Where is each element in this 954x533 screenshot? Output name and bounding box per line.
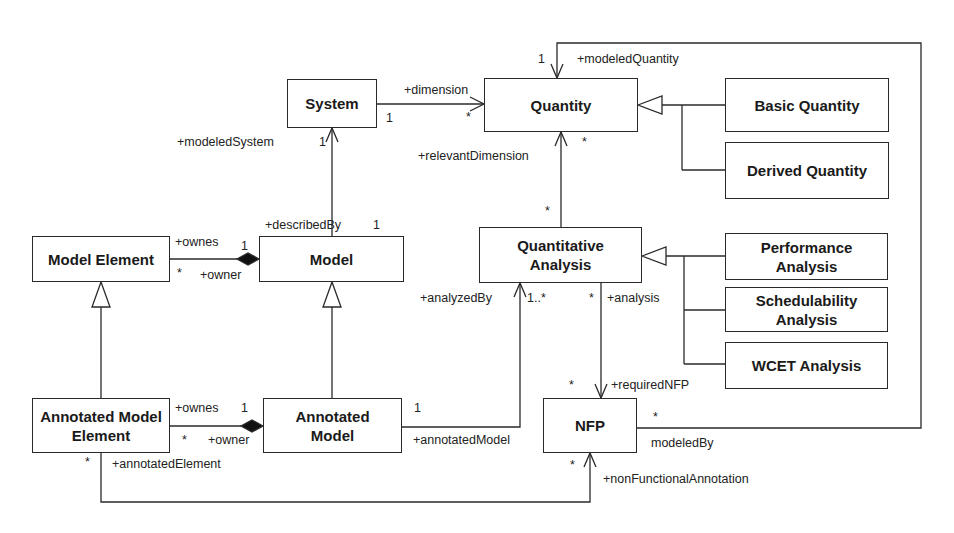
class-nfp[interactable]: NFP [543, 398, 637, 453]
multiplicity-label: 1..* [527, 291, 546, 305]
class-wcet-analysis[interactable]: WCET Analysis [725, 342, 888, 389]
class-nfp-name: NFP [575, 416, 605, 435]
class-derived-quantity-name: Derived Quantity [747, 161, 867, 180]
role-label: +requiredNFP [611, 378, 689, 392]
role-label: +owner [200, 268, 241, 282]
class-system-name: System [305, 94, 358, 113]
class-basic-quantity-name: Basic Quantity [754, 96, 859, 115]
class-wcet-analysis-name: WCET Analysis [752, 356, 861, 375]
class-model-element-name: Model Element [48, 250, 154, 269]
multiplicity-label: * [589, 291, 594, 305]
role-label: +owner [208, 433, 249, 447]
class-annotated-model-element[interactable]: Annotated Model Element [32, 398, 170, 453]
class-basic-quantity[interactable]: Basic Quantity [725, 78, 889, 132]
role-label: +analyzedBy [420, 291, 492, 305]
role-label: modeledBy [651, 436, 714, 450]
class-quantitative-analysis[interactable]: Quantitative Analysis [479, 227, 642, 283]
role-label: +annotatedElement [112, 457, 221, 471]
multiplicity-label: * [570, 458, 575, 472]
role-label: +ownes [175, 235, 218, 249]
class-quantitative-analysis-name: Quantitative Analysis [510, 236, 611, 274]
multiplicity-label: 1 [414, 401, 421, 415]
role-label: +modeledSystem [177, 135, 274, 149]
class-performance-analysis-name: Performance Analysis [754, 238, 859, 276]
role-label: +analysis [607, 291, 659, 305]
multiplicity-label: * [85, 455, 90, 469]
multiplicity-label: * [653, 410, 658, 424]
multiplicity-label: 1 [241, 401, 248, 415]
multiplicity-label: * [182, 433, 187, 447]
multiplicity-label: 1 [241, 239, 248, 253]
role-label: +modeledQuantity [577, 52, 679, 66]
multiplicity-label: * [569, 378, 574, 392]
multiplicity-label: * [582, 135, 587, 149]
class-annotated-model[interactable]: Annotated Model [263, 398, 402, 453]
multiplicity-label: * [177, 266, 182, 280]
class-model-element[interactable]: Model Element [32, 236, 170, 282]
role-label: +describedBy [265, 218, 341, 232]
class-annotated-model-name: Annotated Model [294, 407, 371, 445]
class-quantity[interactable]: Quantity [484, 78, 638, 132]
multiplicity-label: * [545, 204, 550, 218]
class-annotated-model-element-name: Annotated Model Element [39, 407, 163, 445]
class-quantity-name: Quantity [531, 96, 592, 115]
multiplicity-label: * [466, 110, 471, 124]
role-label: +annotatedModel [413, 433, 510, 447]
role-label: +nonFunctionalAnnotation [603, 472, 749, 486]
class-schedulability-analysis-name: Schedulability Analysis [746, 291, 867, 329]
class-model[interactable]: Model [259, 236, 404, 282]
uml-diagram: System Quantity Basic Quantity Derived Q… [0, 0, 954, 533]
class-system[interactable]: System [287, 79, 377, 128]
class-schedulability-analysis[interactable]: Schedulability Analysis [725, 287, 888, 332]
role-label: 1 [538, 52, 545, 66]
class-model-name: Model [310, 250, 353, 269]
role-label: +relevantDimension [418, 149, 529, 163]
multiplicity-label: 1 [386, 111, 393, 125]
role-label: +dimension [404, 83, 468, 97]
multiplicity-label: 1 [373, 218, 380, 232]
class-performance-analysis[interactable]: Performance Analysis [725, 233, 888, 280]
class-derived-quantity[interactable]: Derived Quantity [725, 142, 889, 199]
role-label: +ownes [175, 401, 218, 415]
multiplicity-label: 1 [319, 135, 326, 149]
